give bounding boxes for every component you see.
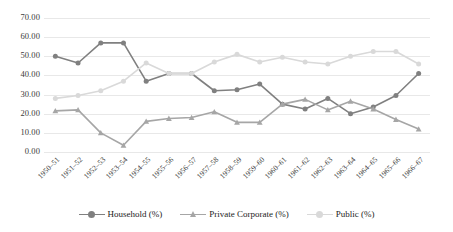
data-point xyxy=(303,60,308,65)
legend-item[interactable]: Household (%) xyxy=(79,209,163,219)
data-point xyxy=(257,60,262,65)
y-tick-label: 30.00 xyxy=(20,90,40,99)
data-point xyxy=(98,88,103,93)
data-point xyxy=(303,106,308,111)
y-tick-label: 20.00 xyxy=(20,109,40,118)
y-tick-label: 50.00 xyxy=(20,51,40,60)
data-point xyxy=(393,93,398,98)
data-point xyxy=(348,54,353,59)
data-point xyxy=(166,71,171,76)
series-1 xyxy=(53,40,421,116)
data-point xyxy=(235,52,240,57)
chart-legend: Household (%)Private Corporate (%)Public… xyxy=(0,203,453,225)
data-point xyxy=(76,93,81,98)
y-tick-label: 0.00 xyxy=(25,147,40,156)
data-point xyxy=(212,60,217,65)
x-axis: 1950–511951–521952–531953–541954–551955–… xyxy=(44,153,430,201)
legend-item[interactable]: Private Corporate (%) xyxy=(180,209,288,219)
data-point xyxy=(416,61,421,66)
data-point xyxy=(144,79,149,84)
legend-label: Public (%) xyxy=(336,209,375,219)
y-axis: 0.0010.0020.0030.0040.0050.0060.0070.00 xyxy=(0,0,40,232)
data-point xyxy=(325,61,330,66)
series-layer xyxy=(44,18,430,152)
data-point xyxy=(189,71,194,76)
data-point xyxy=(121,79,126,84)
y-tick-label: 70.00 xyxy=(20,13,40,22)
series-2 xyxy=(52,96,421,147)
data-point xyxy=(76,60,81,65)
data-point xyxy=(280,55,285,60)
y-tick-label: 10.00 xyxy=(20,128,40,137)
circle-marker-icon xyxy=(79,209,105,219)
series-3 xyxy=(53,49,421,101)
data-point xyxy=(53,54,58,59)
data-point xyxy=(393,49,398,54)
y-tick-label: 60.00 xyxy=(20,32,40,41)
data-point xyxy=(348,98,354,103)
line-chart: 0.0010.0020.0030.0040.0050.0060.0070.00 … xyxy=(0,0,453,232)
y-tick-label: 40.00 xyxy=(20,70,40,79)
data-point xyxy=(121,40,126,45)
data-point xyxy=(416,71,421,76)
data-point xyxy=(144,60,149,65)
circle-marker-icon xyxy=(307,209,333,219)
legend-label: Household (%) xyxy=(108,209,163,219)
legend-label: Private Corporate (%) xyxy=(209,209,288,219)
data-point xyxy=(257,82,262,87)
data-point xyxy=(235,87,240,92)
data-point xyxy=(98,40,103,45)
data-point xyxy=(348,111,353,116)
data-point xyxy=(371,49,376,54)
plot-area xyxy=(44,18,430,152)
data-point xyxy=(212,88,217,93)
data-point xyxy=(53,96,58,101)
data-point xyxy=(325,96,330,101)
triangle-marker-icon xyxy=(180,209,206,219)
legend-item[interactable]: Public (%) xyxy=(307,209,375,219)
